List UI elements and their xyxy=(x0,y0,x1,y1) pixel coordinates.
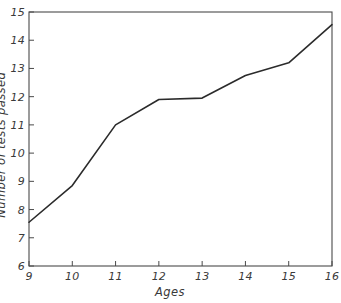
y-tick-label: 13 xyxy=(7,63,25,74)
y-tick-label: 6 xyxy=(7,261,25,272)
x-axis-title: Ages xyxy=(155,287,185,299)
line-chart-figure: 910111213141516 6789101112131415 Ages Nu… xyxy=(0,0,341,303)
y-tick-label: 8 xyxy=(7,204,25,215)
y-tick-label: 14 xyxy=(7,35,25,46)
y-tick-label: 9 xyxy=(7,176,25,187)
x-tick-label: 11 xyxy=(108,271,122,282)
x-tick-label: 9 xyxy=(25,271,32,282)
x-tick-label: 12 xyxy=(152,271,166,282)
y-axis-title: Number of tests passed xyxy=(0,72,8,218)
x-tick-label: 14 xyxy=(238,271,252,282)
x-tick-label: 15 xyxy=(282,271,296,282)
chart-background xyxy=(0,0,341,303)
x-tick-label: 16 xyxy=(325,271,339,282)
x-tick-label: 10 xyxy=(65,271,79,282)
y-tick-label: 12 xyxy=(7,91,25,102)
y-tick-label: 10 xyxy=(7,148,25,159)
y-tick-label: 7 xyxy=(7,232,25,243)
x-tick-label: 13 xyxy=(195,271,209,282)
y-tick-label: 11 xyxy=(7,119,25,130)
plot-area xyxy=(0,0,341,303)
y-tick-label: 15 xyxy=(7,7,25,18)
